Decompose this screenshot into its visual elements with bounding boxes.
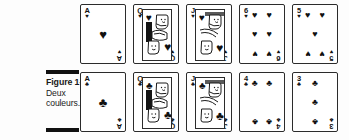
svg-text:♣: ♣	[164, 108, 171, 122]
card-suit-pip-icon: ♣	[312, 117, 318, 126]
playing-card-3-clubs[interactable]: 3♣3♣♣♣♣	[292, 72, 338, 132]
caption-label: Figure 1-5 :	[46, 77, 82, 88]
figure-caption-text: Figure 1-5 : Deux couleurs.	[46, 77, 82, 109]
playing-card-j-clubs[interactable]: J♣J♣ ♣ ♣	[186, 72, 232, 132]
card-suit-pip-icon: ♥	[320, 11, 325, 20]
card-suit-pip-icon: ♥	[252, 49, 257, 58]
card-suit-pip-icon: ♥	[252, 11, 257, 20]
caption-body-line-1: Deux	[46, 88, 82, 99]
svg-text:♥: ♥	[199, 12, 205, 23]
card-suit-pip-icon: ♣	[266, 117, 272, 126]
card-suit-pip-icon: ♥	[267, 11, 272, 20]
svg-text:♥: ♥	[216, 41, 223, 55]
court-card-illustration: ♣ ♣	[195, 77, 225, 129]
card-suit-pip-icon: ♥	[320, 49, 325, 58]
card-suit-pip-icon: ♥	[312, 30, 317, 39]
card-suit-pip-icon: ♣	[252, 117, 258, 126]
playing-card-a-hearts[interactable]: A♥A♥♥	[80, 4, 126, 64]
playing-card-a-clubs[interactable]: A♣A♣♣	[80, 72, 126, 132]
svg-text:♣: ♣	[146, 80, 153, 91]
svg-text:♥: ♥	[164, 40, 171, 54]
playing-card-q-clubs[interactable]: Q♣Q♣ ♣ ♣	[133, 72, 179, 132]
court-card-illustration: ♥ ♥	[195, 9, 225, 61]
playing-card-5-hearts[interactable]: 5♥5♥♥♥♥♥♥	[292, 4, 338, 64]
card-suit-pip-icon: ♣	[252, 79, 258, 88]
card-pip-field: ♣♣♣	[302, 77, 328, 127]
card-suit-pip-icon: ♥	[267, 30, 272, 39]
card-pip-field: ♣♣♣♣	[249, 77, 275, 127]
card-suit-pip-icon: ♥	[99, 28, 107, 41]
playing-card-j-hearts[interactable]: J♥J♥ ♥ ♥	[186, 4, 232, 64]
card-pip-field: ♥	[90, 9, 116, 59]
caption-rule-top	[46, 70, 79, 74]
svg-text:♣: ♣	[216, 109, 224, 123]
card-pip-field: ♣	[90, 77, 116, 127]
card-suit-pip-icon: ♥	[267, 49, 272, 58]
playing-card-4-clubs[interactable]: 4♣4♣♣♣♣♣	[239, 72, 285, 132]
playing-card-6-hearts[interactable]: 6♥6♥♥♥♥♥♥♥	[239, 4, 285, 64]
card-suit-pip-icon: ♥	[305, 11, 310, 20]
playing-card-q-hearts[interactable]: Q♥Q♥ ♥ ♥	[133, 4, 179, 64]
card-pip-field: ♥♥♥♥♥♥	[249, 9, 275, 59]
card-suit-pip-icon: ♥	[305, 49, 310, 58]
card-suit-pip-icon: ♣	[312, 98, 318, 107]
card-suit-pip-icon: ♥	[252, 30, 257, 39]
card-suit-pip-icon: ♣	[312, 79, 318, 88]
caption-body-line-2: couleurs.	[46, 98, 82, 109]
court-card-illustration: ♥ ♥	[142, 9, 172, 61]
figure-caption-block: Figure 1-5 : Deux couleurs.	[46, 70, 79, 132]
card-suit-pip-icon: ♣	[99, 96, 108, 109]
card-suit-pip-icon: ♣	[266, 79, 272, 88]
court-card-illustration: ♣ ♣	[142, 77, 172, 129]
caption-rule-bottom	[46, 128, 79, 132]
svg-text:♣: ♣	[199, 80, 206, 91]
svg-text:♥: ♥	[146, 12, 152, 23]
card-pip-field: ♥♥♥♥♥	[302, 9, 328, 59]
figure-container: Figure 1-5 : Deux couleurs. A♥A♥♥Q♥Q♥ ♥	[0, 0, 349, 140]
